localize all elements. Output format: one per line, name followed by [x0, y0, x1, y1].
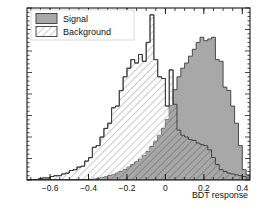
- chart-canvas: −0.6−0.4−0.200.20.4 BDT response Signal …: [0, 0, 263, 211]
- x-tick-label: −0.2: [119, 183, 136, 193]
- x-axis-title: BDT response: [192, 190, 248, 200]
- x-tick-label: 0: [163, 183, 168, 193]
- x-tick-label: −0.6: [42, 183, 59, 193]
- bdt-response-chart: −0.6−0.4−0.200.20.4 BDT response Signal …: [0, 0, 263, 211]
- legend-label-background: Background: [63, 27, 111, 37]
- legend: Signal Background: [31, 10, 134, 40]
- legend-swatch-background: [36, 27, 57, 37]
- legend-swatch-signal: [36, 14, 57, 24]
- x-tick-label: −0.4: [80, 183, 97, 193]
- legend-label-signal: Signal: [63, 14, 88, 24]
